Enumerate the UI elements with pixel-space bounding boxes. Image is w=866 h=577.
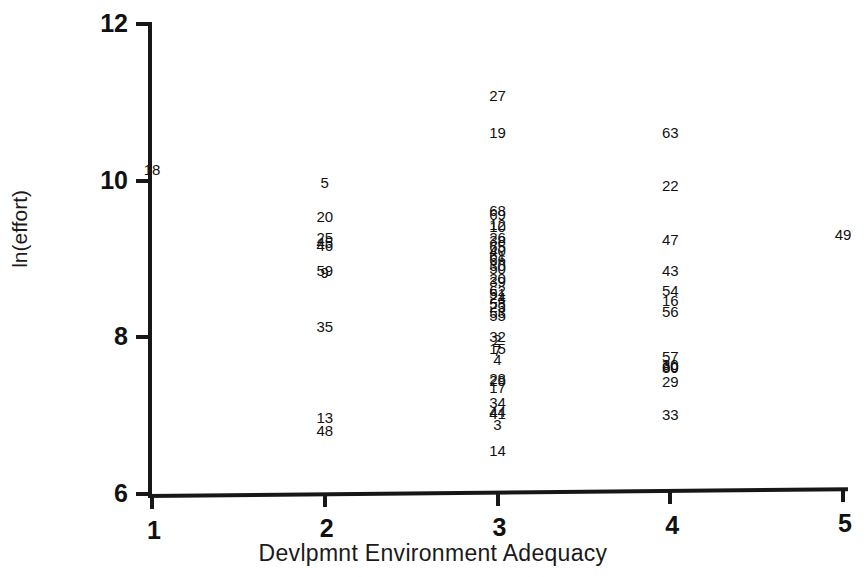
data-point-label[interactable]: 48 — [316, 422, 333, 437]
x-tick-mark — [841, 489, 845, 502]
y-tick-label: 8 — [84, 324, 128, 349]
data-point-label[interactable]: 49 — [835, 226, 852, 241]
x-tick-mark — [323, 494, 327, 507]
data-point-label[interactable]: 22 — [662, 177, 679, 192]
data-point-label[interactable]: 5 — [321, 175, 329, 190]
y-tick-label: 12 — [84, 11, 128, 36]
data-point-label[interactable]: 20 — [316, 208, 333, 223]
x-axis-title: Devlpmnt Environment Adequacy — [0, 540, 866, 567]
y-axis-title: ln(effort) — [8, 190, 32, 268]
data-point-label[interactable]: 46 — [316, 237, 333, 252]
y-tick-label: 6 — [84, 481, 128, 506]
data-point-label[interactable]: 56 — [662, 303, 679, 318]
x-tick-label: 4 — [652, 513, 692, 538]
x-tick-mark — [668, 491, 672, 504]
data-point-label[interactable]: 63 — [662, 125, 679, 140]
data-point-label[interactable]: 3 — [493, 416, 501, 431]
data-point-label[interactable]: 27 — [489, 87, 506, 102]
y-tick-mark — [136, 335, 150, 339]
x-tick-mark — [150, 496, 154, 509]
data-point-label[interactable]: 29 — [662, 374, 679, 389]
y-tick-mark — [136, 492, 150, 496]
x-tick-label: 3 — [480, 515, 520, 540]
data-point-label[interactable]: 33 — [662, 407, 679, 422]
data-point-label[interactable]: 14 — [489, 443, 506, 458]
data-point-label[interactable]: 55 — [489, 308, 506, 323]
data-point-label[interactable]: 47 — [662, 232, 679, 247]
y-tick-mark — [136, 22, 150, 26]
data-point-label[interactable]: 9 — [321, 264, 329, 279]
y-tick-label: 10 — [84, 168, 128, 193]
x-tick-label: 2 — [307, 516, 347, 541]
x-tick-label: 5 — [825, 511, 865, 536]
data-point-label[interactable]: 4 — [493, 352, 501, 367]
y-axis-line — [148, 22, 152, 496]
data-point-label[interactable]: 18 — [144, 161, 161, 176]
x-tick-mark — [496, 493, 500, 506]
scatter-plot: 681012 12345 ln(effort) Devlpmnt Environ… — [0, 0, 866, 577]
data-point-label[interactable]: 19 — [489, 125, 506, 140]
data-point-label[interactable]: 35 — [316, 319, 333, 334]
data-point-label[interactable]: 43 — [662, 262, 679, 277]
y-tick-mark — [136, 179, 150, 183]
